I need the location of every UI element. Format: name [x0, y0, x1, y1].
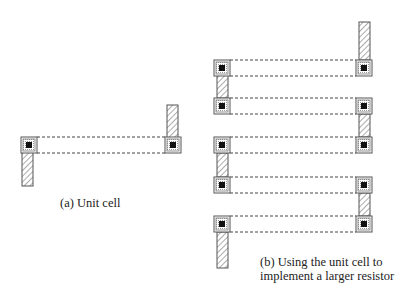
resistor-strip	[359, 114, 370, 137]
resistor-strip	[359, 193, 370, 216]
caption-unit-cell: (a) Unit cell	[60, 197, 120, 210]
resistor-strip	[217, 75, 228, 98]
contact-icon	[214, 216, 230, 232]
contact-icon	[356, 98, 372, 114]
large-resistor	[214, 22, 372, 268]
contact-icon	[356, 60, 372, 76]
contact-icon	[356, 137, 372, 153]
resistor-strip	[217, 153, 228, 177]
unit-cell	[21, 105, 181, 186]
caption-larger-resistor-line2: implement a larger resistor	[260, 270, 394, 283]
contact-icon	[214, 177, 230, 193]
resistor-strip	[167, 105, 178, 138]
contact-icon	[21, 137, 37, 153]
resistor-strip	[359, 22, 370, 60]
resistor-strip	[217, 232, 228, 268]
resistor-layout-diagram	[0, 0, 413, 293]
contact-icon	[356, 216, 372, 232]
contact-icon	[214, 60, 230, 76]
contact-icon	[165, 137, 181, 153]
contact-icon	[214, 98, 230, 114]
dashed-boundaries	[230, 60, 356, 232]
contact-icon	[356, 177, 372, 193]
contact-icon	[214, 137, 230, 153]
resistor-strip	[22, 152, 33, 186]
caption-larger-resistor-line1: (b) Using the unit cell to	[260, 256, 383, 269]
